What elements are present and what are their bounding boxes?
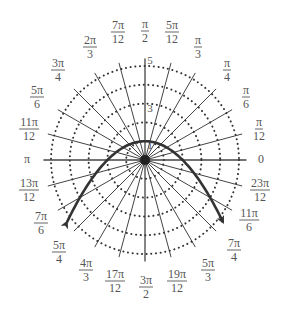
angle-label: 23π12 — [250, 178, 270, 203]
angle-label: π12 — [253, 117, 265, 142]
angle-label-denominator: 12 — [23, 191, 35, 203]
angle-label: π — [23, 154, 31, 166]
angle-label: 5π6 — [30, 85, 44, 110]
spoke-line — [145, 160, 195, 247]
angle-label: 5π3 — [201, 258, 215, 283]
spoke-line — [95, 160, 145, 247]
angle-label-denominator: 6 — [246, 221, 252, 233]
angle-label: 13π12 — [19, 178, 39, 203]
spoke-line — [58, 110, 145, 160]
angle-label-denominator: 12 — [166, 33, 178, 45]
angle-label: 4π3 — [79, 258, 93, 283]
angle-label-denominator: 6 — [243, 98, 249, 110]
spoke-line — [145, 110, 232, 160]
angle-label: 3π2 — [139, 275, 153, 300]
pole-dot — [140, 155, 150, 165]
angle-label: π2 — [141, 19, 149, 44]
angle-label: 5π4 — [52, 240, 66, 265]
angle-label: 3π4 — [51, 58, 65, 83]
angle-label-denominator: 3 — [195, 48, 201, 60]
spoke-line — [74, 89, 145, 160]
angle-label: 17π12 — [105, 269, 125, 294]
spoke-line — [48, 134, 145, 160]
angle-label: 7π6 — [34, 211, 48, 236]
angle-label: 5π12 — [165, 20, 179, 45]
angle-label-denominator: 3 — [87, 48, 93, 60]
angle-label-denominator: 2 — [142, 32, 148, 44]
angle-label: π3 — [194, 35, 202, 60]
radial-tick-label: 3 — [147, 102, 153, 114]
angle-label: 11π6 — [239, 208, 259, 233]
angle-label-denominator: 12 — [254, 191, 266, 203]
angle-label: 11π12 — [19, 117, 39, 142]
angle-label-denominator: 4 — [55, 71, 61, 83]
polar-graph: 0π12π6π4π35π12π27π122π33π45π611π12π13π12… — [0, 0, 286, 315]
radial-tick-label: 5 — [147, 54, 153, 66]
angle-label-denominator: 2 — [143, 288, 149, 300]
angle-label-numerator: 0 — [257, 154, 265, 166]
angle-label-denominator: 12 — [171, 282, 183, 294]
angle-label: π4 — [223, 58, 231, 83]
angle-label-denominator: 6 — [38, 224, 44, 236]
angle-label-denominator: 12 — [253, 130, 265, 142]
angle-label-denominator: 3 — [205, 271, 211, 283]
angle-label-denominator: 4 — [56, 253, 62, 265]
polar-plot-area — [0, 0, 286, 315]
angle-label-denominator: 3 — [83, 271, 89, 283]
angle-label: 19π12 — [167, 269, 187, 294]
spoke-line — [145, 160, 216, 231]
angle-label-numerator: π — [23, 154, 31, 166]
angle-label: 7π4 — [227, 238, 241, 263]
angle-label: 0 — [257, 154, 265, 166]
angle-label-denominator: 12 — [112, 33, 124, 45]
angle-label: 7π12 — [111, 20, 125, 45]
angle-label: 2π3 — [83, 35, 97, 60]
angle-label-denominator: 12 — [23, 130, 35, 142]
angle-label-denominator: 12 — [109, 282, 121, 294]
angle-label: π6 — [242, 85, 250, 110]
angle-label-denominator: 6 — [34, 98, 40, 110]
angle-label-denominator: 4 — [224, 71, 230, 83]
spoke-line — [95, 73, 145, 160]
radial-tick-label: 1 — [147, 139, 153, 151]
spoke-line — [145, 160, 171, 257]
spoke-line — [119, 63, 145, 160]
angle-label-denominator: 4 — [231, 251, 237, 263]
